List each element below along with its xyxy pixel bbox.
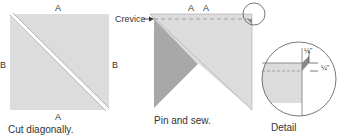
label-b-right: B xyxy=(112,60,118,70)
label-quarter-inch-right: ¼" xyxy=(321,64,330,71)
label-a-bottom: A xyxy=(55,112,61,122)
label-a-second: A xyxy=(203,3,209,13)
label-crevice: Crevice xyxy=(115,14,146,24)
panel-detail: ¼" ¼" Detail xyxy=(262,42,336,133)
label-a-first: A xyxy=(188,3,194,13)
caption-cut-diagonally: Cut diagonally. xyxy=(8,124,73,135)
panel-cut-diagonally: A A B B Cut diagonally. xyxy=(0,3,118,135)
label-b-left: B xyxy=(0,60,6,70)
diagram-canvas: A A B B Cut diagonally. Crevice A A Pin … xyxy=(0,0,342,138)
caption-detail: Detail xyxy=(271,122,297,133)
caption-pin-and-sew: Pin and sew. xyxy=(154,115,211,126)
label-a-top: A xyxy=(55,3,61,13)
panel-pin-and-sew: Crevice A A Pin and sew. xyxy=(115,3,265,126)
detail-fabric xyxy=(262,63,302,103)
label-quarter-inch-top: ¼" xyxy=(304,47,313,54)
